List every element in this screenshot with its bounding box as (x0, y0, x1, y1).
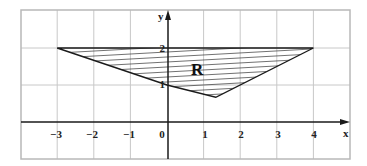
x-tick-label: 4 (311, 128, 317, 140)
x-tick-label: 0 (159, 128, 165, 140)
coordinate-plane: x y −3 −2 −1 0 1 2 3 4 1 2 R (0, 0, 367, 166)
region-label: R (191, 60, 204, 79)
grid (21, 10, 350, 159)
y-tick-label: 2 (160, 42, 166, 54)
region-boundary (57, 48, 313, 97)
y-axis-label: y (158, 10, 164, 22)
x-tick-label: 2 (238, 128, 244, 140)
x-axis-label: x (343, 127, 349, 139)
x-tick-label: −1 (123, 128, 135, 140)
x-tick-label: 1 (202, 128, 208, 140)
x-tick-label: 3 (275, 128, 281, 140)
x-axis-arrow-icon (340, 119, 350, 125)
x-tick-label: −2 (86, 128, 98, 140)
region-hatching (40, 38, 330, 114)
y-axis-arrow-icon (165, 10, 171, 20)
x-tick-label: −3 (50, 128, 62, 140)
y-tick-label: 1 (160, 78, 166, 90)
x-tick-labels: −3 −2 −1 0 1 2 3 4 (50, 128, 317, 140)
y-tick-labels: 1 2 (160, 42, 166, 90)
